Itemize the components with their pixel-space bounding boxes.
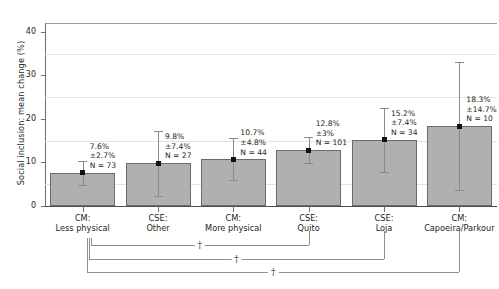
data-label-n: N = 27 [165,151,192,161]
data-label-value: 12.8% [316,119,347,129]
data-label-error: ±3% [316,129,347,139]
error-bar-cap-upper [229,138,238,139]
error-bar-cap-upper [380,108,389,109]
x-axis-line [45,206,497,207]
data-label-value: 15.2% [391,109,418,119]
significance-symbol: † [268,268,279,277]
error-bar-cap-upper [154,131,163,132]
data-label: 15.2%±7.4%N = 34 [391,109,418,138]
y-tick-mark [41,32,45,33]
y-tick-label: 30 [14,71,36,79]
mean-marker [80,170,85,175]
y-tick-mark [41,162,45,163]
x-tick-mark [384,206,385,212]
data-label-value: 7.6% [90,142,117,152]
mean-marker [382,137,387,142]
data-label-error: ±14.7% [466,105,497,115]
mean-marker [156,161,161,166]
error-bar-cap-lower [229,180,238,181]
error-bar-cap-upper [455,62,464,63]
error-bar-cap-lower [380,172,389,173]
error-bar-cap-lower [304,163,313,164]
significance-bracket-tick-left [91,238,92,245]
significance-bracket-tick-left [89,238,90,259]
data-label-value: 10.7% [240,128,267,138]
gridline [45,54,497,55]
y-tick-label: 20 [14,115,36,123]
data-label-error: ±4.8% [240,138,267,148]
chart-figure: Social inclusion: mean change (%) 010203… [0,0,499,289]
data-label-value: 18.3% [466,95,497,105]
y-tick-mark [41,75,45,76]
y-tick-label: 10 [14,158,36,166]
data-label: 18.3%±14.7%N = 10 [466,95,497,124]
error-bar-cap-lower [455,190,464,191]
x-tick-mark [83,206,84,212]
x-axis-label: CM:Capoeira/Parkour [399,213,499,234]
data-label-n: N = 10 [466,114,497,124]
data-label: 10.7%±4.8%N = 44 [240,128,267,157]
mean-marker [306,148,311,153]
error-bar-cap-lower [154,196,163,197]
data-label-n: N = 44 [240,148,267,158]
mean-marker [457,124,462,129]
significance-bracket-tick-right [309,231,310,245]
x-tick-mark [309,206,310,212]
significance-bracket-tick-right [384,231,385,259]
data-label: 7.6%±2.7%N = 73 [90,142,117,171]
data-label-error: ±7.4% [391,118,418,128]
significance-bracket-tick-left [87,238,88,272]
y-axis-title: Social inclusion: mean change (%) [16,18,26,208]
significance-symbol: † [195,241,206,250]
data-label-value: 9.8% [165,132,192,142]
gridline [45,97,497,98]
x-tick-mark [233,206,234,212]
data-label-n: N = 34 [391,128,418,138]
x-tick-mark [158,206,159,212]
significance-bracket-tick-right [459,231,460,272]
x-axis-label-line2: Capoeira/Parkour [399,223,499,233]
x-tick-mark [459,206,460,212]
error-bar-cap-upper [304,137,313,138]
data-label-error: ±7.4% [165,142,192,152]
data-label-error: ±2.7% [90,151,117,161]
y-tick-mark [41,119,45,120]
significance-symbol: † [231,255,242,264]
y-tick-label: 40 [14,28,36,36]
mean-marker [231,157,236,162]
x-axis-label-line1: CM: [399,213,499,223]
error-bar-cap-upper [78,161,87,162]
data-label: 9.8%±7.4%N = 27 [165,132,192,161]
data-label-n: N = 101 [316,138,347,148]
error-bar-cap-lower [78,185,87,186]
data-label-n: N = 73 [90,161,117,171]
data-label: 12.8%±3%N = 101 [316,119,347,148]
y-tick-label: 0 [14,202,36,210]
